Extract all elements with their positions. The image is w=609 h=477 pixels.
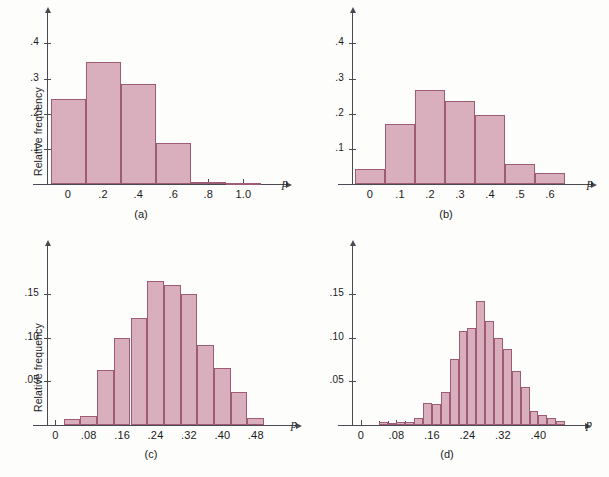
x-tick-b-3 <box>460 179 461 185</box>
histogram-bar <box>415 90 445 184</box>
y-axis-c <box>47 245 48 425</box>
histogram-bar <box>226 183 261 185</box>
histogram-bar <box>467 328 476 425</box>
x-tick-label-a-2: .4 <box>118 188 158 200</box>
histogram-bar <box>197 345 214 425</box>
x-tick-c-3 <box>156 420 157 426</box>
x-tick-b-1 <box>400 179 401 185</box>
x-minor-tick-d-20 <box>556 421 557 425</box>
y-tick-d-1 <box>349 338 356 339</box>
histogram-bar <box>147 281 164 425</box>
x-tick-label-d-4: .32 <box>483 429 523 441</box>
histogram-bar <box>450 359 459 425</box>
histogram-bar <box>64 419 81 425</box>
histogram-bar <box>494 338 503 425</box>
x-tick-d-2 <box>432 420 433 426</box>
x-minor-tick-d-18 <box>538 421 539 425</box>
histogram-bar <box>535 173 565 184</box>
x-tick-label-b-4: .4 <box>470 188 510 200</box>
histogram-bar <box>51 99 86 184</box>
histogram-bar <box>131 318 148 425</box>
x-minor-tick-c-3 <box>114 421 115 425</box>
y-tick-b-2 <box>349 79 356 80</box>
x-tick-a-3 <box>173 179 174 185</box>
histogram-panel-b: .1.2.3.40.1.2.3.4.5.6p(b) <box>0 0 609 477</box>
x-tick-b-5 <box>520 179 521 185</box>
x-axis-a <box>33 184 287 185</box>
x-minor-tick-d-4 <box>414 421 415 425</box>
x-minor-tick-c-11 <box>247 421 248 425</box>
x-tick-label-c-0: 0 <box>35 429 75 441</box>
y-tick-label-a-2: .3 <box>13 72 39 83</box>
y-tick-label-b-2: .3 <box>318 72 344 83</box>
x-minor-tick-d-13 <box>494 421 495 425</box>
histogram-bar <box>396 422 405 425</box>
x-tick-label-a-0: 0 <box>48 188 88 200</box>
x-tick-c-0 <box>55 420 56 426</box>
y-tick-label-b-1: .2 <box>318 107 344 118</box>
y-tick-b-0 <box>349 149 356 150</box>
histogram-panel-c: .05.10.150.08.16.24.32.40.48Relative fre… <box>0 0 609 477</box>
y-tick-label-a-3: .4 <box>13 36 39 47</box>
x-axis-title-c: p <box>291 417 297 432</box>
histogram-bar <box>547 418 556 425</box>
x-tick-a-0 <box>68 179 69 185</box>
histogram-bar <box>512 371 521 425</box>
x-minor-tick-c-2 <box>97 421 98 425</box>
y-tick-b-1 <box>349 114 356 115</box>
x-tick-label-d-5: .40 <box>518 429 558 441</box>
x-tick-label-a-1: .2 <box>83 188 123 200</box>
histogram-panel-d: .05.10.150.08.16.24.32.40p(d) <box>0 0 609 477</box>
histogram-bar <box>80 416 97 425</box>
x-minor-tick-c-7 <box>181 421 182 425</box>
histogram-bar <box>388 423 397 425</box>
histogram-bar <box>445 101 475 184</box>
y-tick-label-b-0: .1 <box>318 142 344 153</box>
y-tick-label-a-0: .1 <box>13 142 39 153</box>
y-axis-title-a: Relative frequency <box>32 87 44 176</box>
x-tick-label-b-1: .1 <box>380 188 420 200</box>
x-axis-b <box>338 184 592 185</box>
x-tick-c-5 <box>222 420 223 426</box>
histogram-bar <box>97 370 114 425</box>
x-tick-a-5 <box>243 179 244 185</box>
y-tick-b-3 <box>349 43 356 44</box>
panel-caption-c: (c) <box>131 448 171 460</box>
histogram-bar <box>156 143 191 184</box>
x-tick-d-0 <box>361 420 362 426</box>
y-axis-d <box>352 245 353 425</box>
x-tick-label-c-1: .08 <box>69 429 109 441</box>
histogram-bar <box>214 368 231 425</box>
x-minor-tick-d-5 <box>423 421 424 425</box>
x-axis-title-b: p <box>587 176 593 191</box>
histogram-bar <box>231 392 248 425</box>
panel-caption-b: (b) <box>426 208 466 220</box>
y-tick-a-0 <box>44 149 51 150</box>
x-tick-label-d-3: .24 <box>447 429 487 441</box>
x-minor-tick-d-19 <box>547 421 548 425</box>
histogram-bar <box>247 418 264 425</box>
histogram-bar <box>441 392 450 425</box>
histogram-bar <box>114 338 131 425</box>
x-tick-d-5 <box>538 420 539 426</box>
x-minor-tick-c-0 <box>64 421 65 425</box>
x-tick-d-1 <box>396 420 397 426</box>
histogram-bar <box>164 285 181 425</box>
x-tick-c-4 <box>189 420 190 426</box>
x-tick-a-4 <box>208 179 209 185</box>
y-tick-c-0 <box>44 381 51 382</box>
y-tick-label-d-0: .05 <box>318 374 344 385</box>
x-minor-tick-d-14 <box>503 421 504 425</box>
x-axis-d <box>338 425 586 426</box>
y-axis-title-c: Relative frequency <box>32 323 44 412</box>
x-minor-tick-c-10 <box>231 421 232 425</box>
y-tick-d-2 <box>349 294 356 295</box>
histogram-bar <box>379 422 388 425</box>
x-minor-tick-d-0 <box>379 421 380 425</box>
x-minor-tick-c-6 <box>164 421 165 425</box>
x-tick-label-a-4: .8 <box>188 188 228 200</box>
histogram-bar <box>181 294 198 425</box>
x-minor-tick-d-9 <box>459 421 460 425</box>
x-minor-tick-d-16 <box>521 421 522 425</box>
x-minor-tick-d-11 <box>476 421 477 425</box>
